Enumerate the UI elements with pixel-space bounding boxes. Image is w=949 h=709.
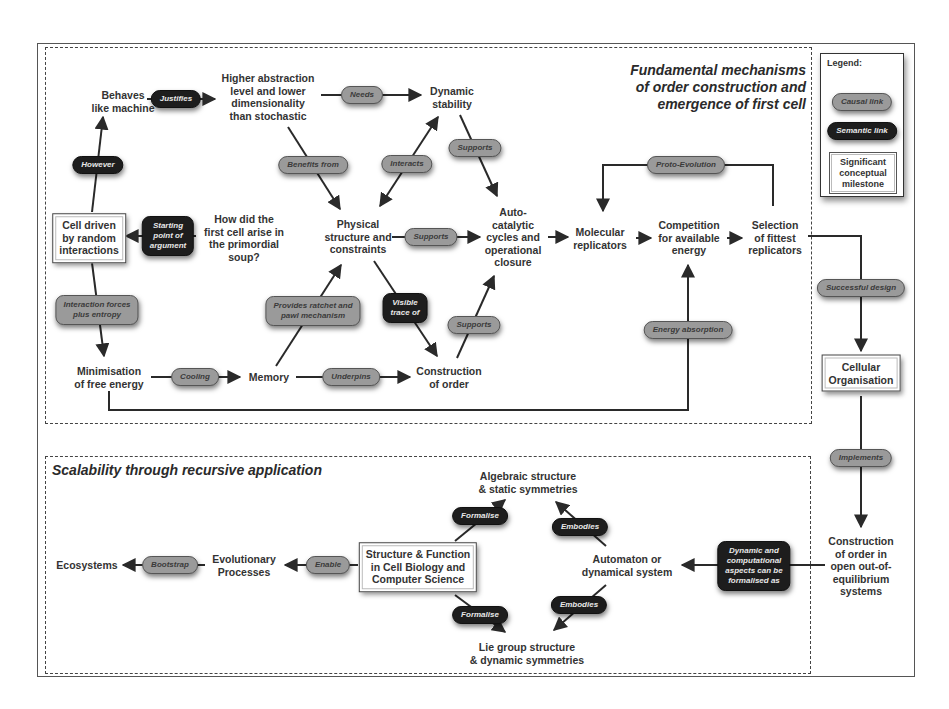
top-title-line: Fundamental mechanisms [610, 62, 806, 79]
link-implements: Implements [830, 449, 892, 467]
legend-causal-link: Causal link [832, 93, 892, 111]
node-minimisation: Minimisation of free energy [74, 365, 143, 390]
node-autocatalytic: Auto- catalytic cycles and operational c… [485, 206, 542, 269]
node-how-did-cell-arise: How did the first cell arise in the prim… [204, 213, 284, 263]
node-selection: Selection of fittest replicators [748, 219, 802, 257]
link-provides-ratchet: Provides ratchet and pawl mechanism [265, 296, 360, 326]
link-interaction-forces: Interaction forces plus entropy [55, 295, 138, 325]
node-lie-group: Lie group structure & dynamic symmetries [470, 641, 584, 666]
node-dynamic-stability: Dynamic stability [430, 85, 474, 110]
node-algebraic-structure: Algebraic structure & static symmetries [478, 470, 577, 495]
link-however: However [72, 156, 123, 174]
link-starting-point: Starting point of argument [142, 216, 194, 256]
node-competition: Competition for available energy [658, 219, 719, 257]
link-needs: Needs [341, 86, 383, 104]
node-physical-structure: Physical structure and constraints [324, 218, 391, 256]
link-benefits-from: Benefits from [278, 156, 348, 174]
link-successful-design: Successful design [817, 279, 905, 297]
link-cooling: Cooling [171, 368, 219, 386]
node-construction-open-systems: Construction of order in open out-of- eq… [828, 535, 893, 598]
legend: Legend: Causal link Semantic link Signif… [820, 53, 904, 197]
legend-title: Legend: [827, 58, 862, 68]
node-cellular-organisation-milestone: Cellular Organisation [822, 355, 901, 392]
node-molecular-replicators: Molecular replicators [573, 226, 627, 251]
node-higher-abstraction: Higher abstraction level and lower dimen… [222, 72, 315, 122]
link-enable: Enable [306, 556, 350, 574]
link-justifies: Justifies [151, 90, 201, 108]
link-supports-3: Supports [447, 316, 500, 334]
node-ecosystems: Ecosystems [56, 559, 117, 572]
link-formalise-1: Formalise [452, 507, 508, 525]
link-bootstrap: Bootstrap [142, 556, 198, 574]
node-behaves-like-machine: Behaves like machine [91, 89, 154, 114]
top-section-title: Fundamental mechanisms of order construc… [610, 62, 806, 113]
link-proto-evolution: Proto-Evolution [647, 156, 725, 174]
top-title-line: of order construction and [610, 79, 806, 96]
link-embodies-1: Embodies [552, 518, 608, 536]
link-embodies-2: Embodies [551, 596, 607, 614]
top-title-line: emergence of first cell [610, 96, 806, 113]
node-memory: Memory [249, 371, 289, 384]
link-dynamic-computational: Dynamic and computational aspects can be… [717, 541, 790, 591]
link-underpins: Underpins [322, 368, 380, 386]
legend-semantic-link: Semantic link [827, 122, 897, 140]
node-structure-function-milestone: Structure & Function in Cell Biology and… [359, 542, 477, 592]
link-supports-1: Supports [448, 139, 501, 157]
link-energy-absorption: Energy absorption [644, 321, 733, 339]
link-supports-2: Supports [404, 228, 457, 246]
link-interacts: Interacts [381, 155, 432, 173]
bottom-section-title: Scalability through recursive applicatio… [52, 462, 322, 479]
node-evolutionary-processes: Evolutionary Processes [212, 553, 276, 578]
link-visible-trace: Visible trace of [383, 293, 428, 323]
node-cell-driven-milestone: Cell driven by random interactions [52, 213, 126, 263]
node-construction-of-order: Construction of order [416, 365, 481, 390]
node-automaton: Automaton or dynamical system [582, 553, 672, 578]
legend-milestone: Significant conceptual milestone [829, 152, 897, 194]
link-formalise-2: Formalise [452, 606, 508, 624]
